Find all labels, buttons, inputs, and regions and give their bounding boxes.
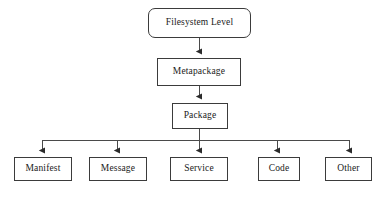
node-manifest: Manifest <box>14 157 72 181</box>
node-other-label: Other <box>337 164 359 174</box>
node-message: Message <box>89 157 147 181</box>
node-package: Package <box>172 103 228 129</box>
node-metapackage-label: Metapackage <box>173 67 225 77</box>
node-metapackage: Metapackage <box>157 58 241 86</box>
node-code: Code <box>258 157 300 181</box>
node-service-label: Service <box>184 164 214 174</box>
node-message-label: Message <box>101 164 135 174</box>
figure-caption <box>0 186 390 197</box>
hierarchy-diagram: Filesystem Level Metapackage Package Man… <box>0 0 390 197</box>
node-filesystem-level: Filesystem Level <box>148 8 251 38</box>
node-filesystem-level-label: Filesystem Level <box>166 18 234 28</box>
node-package-label: Package <box>184 111 217 121</box>
node-other: Other <box>325 157 372 181</box>
node-service: Service <box>170 157 228 181</box>
node-code-label: Code <box>269 164 290 174</box>
node-manifest-label: Manifest <box>26 164 61 174</box>
